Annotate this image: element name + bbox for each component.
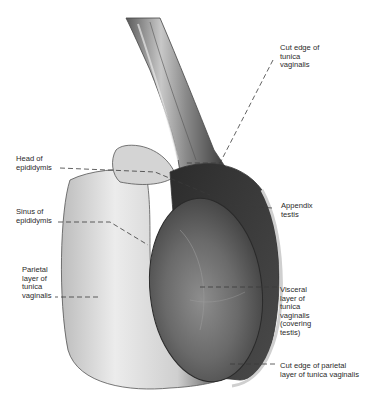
anatomy-figure: Cut edge of tunica vaginalis Head of epi… <box>0 0 385 401</box>
label-appendix-testis: Appendix testis <box>281 202 313 219</box>
label-sinus-of-epididymis: Sinus of epididymis <box>16 208 52 225</box>
label-head-of-epididymis: Head of epididymis <box>16 155 52 172</box>
label-cut-edge-tunica-vaginalis: Cut edge of tunica vaginalis <box>280 44 319 70</box>
label-visceral-layer: Visceral layer of tunica vaginalis (cove… <box>280 286 311 338</box>
label-cut-edge-parietal: Cut edge of parietal layer of tunica vag… <box>280 362 359 379</box>
label-parietal-layer: Parietal layer of tunica vaginalis <box>22 266 52 300</box>
epididymis-head <box>113 145 176 184</box>
testis-illustration <box>0 0 385 401</box>
